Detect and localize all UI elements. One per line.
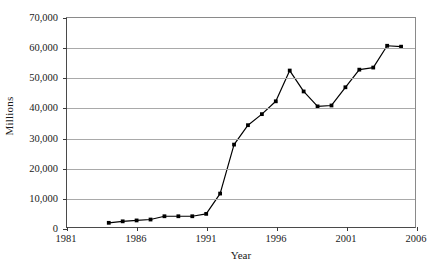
data-point-marker [274, 99, 278, 103]
y-axis-tick-mark [63, 78, 67, 79]
y-axis-tick-mark [63, 108, 67, 109]
data-point-marker [302, 90, 306, 94]
data-point-marker [121, 219, 125, 223]
gridline-horizontal [67, 48, 415, 49]
gridline-horizontal [67, 169, 415, 170]
x-axis-tick-mark [277, 227, 278, 231]
y-axis-tick-labels: 010,00020,00030,00040,00050,00060,00070,… [14, 0, 62, 232]
y-axis-tick-mark [63, 169, 67, 170]
data-point-marker [330, 104, 334, 108]
x-axis-tick-mark [347, 227, 348, 231]
data-point-marker [107, 221, 111, 225]
x-axis-tick-label: 1991 [196, 233, 217, 244]
x-axis-tick-mark [67, 227, 68, 231]
gridline-horizontal [67, 108, 415, 109]
data-point-marker [371, 66, 375, 70]
gridline-horizontal [67, 139, 415, 140]
y-axis-tick-mark [63, 18, 67, 19]
y-axis-tick-label: 60,000 [29, 42, 58, 53]
y-axis-tick-mark [63, 139, 67, 140]
data-point-marker [163, 214, 167, 218]
data-point-marker [190, 214, 194, 218]
data-point-marker [357, 68, 361, 72]
y-axis-tick-label: 50,000 [29, 72, 58, 83]
y-axis-tick-mark [63, 48, 67, 49]
data-point-marker [176, 214, 180, 218]
data-point-marker [232, 143, 236, 147]
data-point-marker [149, 218, 153, 222]
gridline-horizontal [67, 78, 415, 79]
x-axis-tick-label: 1996 [266, 233, 287, 244]
gridline-horizontal [67, 199, 415, 200]
x-axis-tick-label: 2001 [336, 233, 357, 244]
data-point-marker [385, 44, 389, 48]
y-axis-tick-label: 0 [53, 223, 58, 234]
series-line [67, 18, 415, 227]
data-point-marker [204, 212, 208, 216]
series-polyline [109, 46, 401, 223]
x-axis-tick-label: 1986 [126, 233, 147, 244]
data-point-marker [288, 69, 292, 73]
y-axis-tick-mark [63, 199, 67, 200]
x-axis-title: Year [66, 249, 416, 261]
y-axis-tick-label: 70,000 [29, 12, 58, 23]
data-point-marker [246, 123, 250, 127]
x-axis-tick-label: 1981 [56, 233, 77, 244]
x-axis-tick-mark [137, 227, 138, 231]
data-point-marker [135, 219, 139, 223]
data-point-marker [260, 112, 264, 116]
x-axis-tick-label: 2006 [406, 233, 427, 244]
x-axis-tick-labels: 198119861991199620012006 [66, 233, 416, 249]
y-axis-tick-label: 10,000 [29, 192, 58, 203]
y-axis-tick-label: 30,000 [29, 132, 58, 143]
x-axis-tick-mark [207, 227, 208, 231]
data-point-marker [344, 85, 348, 89]
x-axis-tick-mark [417, 227, 418, 231]
line-chart-figure: Millions 010,00020,00030,00040,00050,000… [0, 0, 440, 267]
y-axis-tick-label: 20,000 [29, 162, 58, 173]
plot-area [66, 17, 416, 228]
y-axis-tick-label: 40,000 [29, 102, 58, 113]
data-point-marker [218, 192, 222, 196]
